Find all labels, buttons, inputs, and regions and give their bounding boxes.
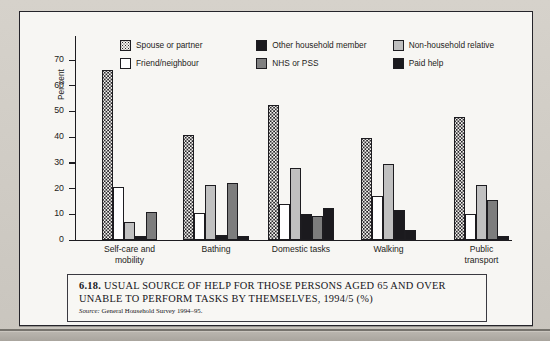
figure-caption-box: 6.18. USUAL SOURCE OF HELP FOR THOSE PER… [67, 274, 487, 322]
bar [323, 208, 334, 240]
caption-text: 6.18. USUAL SOURCE OF HELP FOR THOSE PER… [79, 280, 477, 305]
bar [454, 117, 465, 240]
bar [135, 236, 146, 240]
y-tick-label: 30 [34, 158, 64, 167]
source-prefix: Source: [79, 307, 100, 314]
bar [216, 235, 227, 240]
y-tick-mark [69, 60, 75, 61]
caption-body: USUAL SOURCE OF HELP FOR THOSE PERSONS A… [79, 280, 446, 304]
bar [312, 216, 323, 240]
y-tick-label: 20 [34, 184, 64, 193]
caption-source: Source: General Household Survey 1994–95… [79, 307, 477, 315]
bar-group [361, 55, 416, 240]
y-tick-mark [69, 137, 75, 138]
bar [183, 135, 194, 240]
bar [205, 185, 216, 240]
y-tick-mark [69, 162, 75, 163]
bar [227, 183, 238, 240]
bar [465, 214, 476, 240]
bar [268, 105, 279, 240]
bar [372, 196, 383, 240]
x-tick-label: Domestic tasks [256, 244, 346, 255]
y-tick-label: 10 [34, 209, 64, 218]
y-tick-mark [69, 85, 75, 86]
bar-group [183, 55, 249, 240]
chart-card: Spouse or partner Other household member… [19, 11, 533, 326]
y-tick-label: 0 [34, 235, 64, 244]
bar [405, 230, 416, 240]
source-body: General Household Survey 1994–95. [102, 307, 203, 314]
bar-group [102, 55, 157, 240]
y-axis-line [75, 36, 76, 241]
y-tick-label: 40 [34, 132, 64, 141]
y-tick-mark [69, 188, 75, 189]
page-edge [0, 332, 550, 341]
y-tick-label: 70 [34, 55, 64, 64]
page-edge-line [0, 329, 550, 331]
bar [301, 214, 312, 240]
x-tick-label-line: Domestic tasks [256, 244, 346, 255]
bar [146, 212, 157, 240]
y-tick-mark [69, 111, 75, 112]
x-tick-label-line: transport [437, 255, 527, 266]
y-tick-label: 50 [34, 106, 64, 115]
bar [194, 213, 205, 240]
bar [279, 204, 290, 240]
x-tick-label-line: Public [437, 244, 527, 255]
x-axis-line [70, 240, 512, 241]
bar [394, 210, 405, 240]
x-tick-label-line: Walking [344, 244, 434, 255]
bar [290, 168, 301, 240]
bar-group [268, 55, 334, 240]
y-tick-mark [69, 214, 75, 215]
bar [124, 222, 135, 240]
x-tick-label-line: Self-care and [85, 244, 175, 255]
x-tick-label-line: mobility [85, 255, 175, 266]
bar [487, 200, 498, 240]
y-tick-label: 60 [34, 81, 64, 90]
bar-group [454, 55, 509, 240]
bar [113, 187, 124, 240]
bar [102, 70, 113, 240]
bar [476, 185, 487, 240]
y-tick-mark [69, 240, 75, 241]
x-tick-label-line: Bathing [171, 244, 261, 255]
x-tick-label: Bathing [171, 244, 261, 255]
x-tick-label: Publictransport [437, 244, 527, 265]
figure-page: Spouse or partner Other household member… [0, 0, 550, 341]
x-tick-label: Self-care andmobility [85, 244, 175, 265]
x-tick-label: Walking [344, 244, 434, 255]
bar [361, 138, 372, 240]
bar [498, 236, 509, 240]
bar [383, 164, 394, 240]
caption-number: 6.18. [79, 280, 101, 291]
bar [238, 236, 249, 240]
